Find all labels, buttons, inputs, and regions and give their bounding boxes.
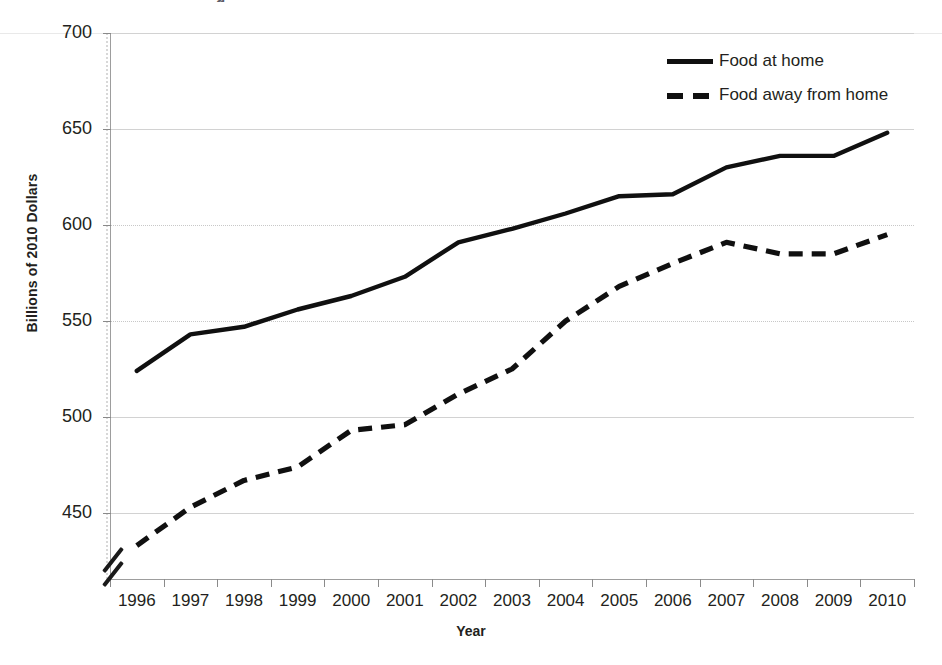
x-tick-9 <box>592 579 593 587</box>
x-tick-6 <box>432 579 433 587</box>
x-tick-15 <box>914 579 915 587</box>
x-tick-11 <box>700 579 701 587</box>
x-tick-8 <box>539 579 540 587</box>
y-tick-700 <box>103 33 111 34</box>
x-tick-4 <box>324 579 325 587</box>
chart-legend: Food at home Food away from home <box>665 44 935 112</box>
y-tick-label-450: 450 <box>36 503 92 521</box>
cropped-title-remnant: g <box>216 0 225 2</box>
y-tick-label-550: 550 <box>36 311 92 329</box>
x-tick-14 <box>860 579 861 587</box>
y-tick-label-650: 650 <box>36 119 92 137</box>
y-tick-label-600: 600 <box>36 215 92 233</box>
y-tick-label-700: 700 <box>36 23 92 41</box>
legend-item-food-at-home[interactable]: Food at home <box>665 44 935 78</box>
axis-break-icon <box>96 546 130 588</box>
x-tick-label-2010: 2010 <box>852 592 922 609</box>
x-tick-13 <box>807 579 808 587</box>
series-line-food-away-from-home <box>137 235 887 546</box>
x-tick-3 <box>271 579 272 587</box>
x-tick-1 <box>164 579 165 587</box>
gridline-650 <box>110 129 914 130</box>
y-axis-line <box>110 33 111 579</box>
x-tick-7 <box>485 579 486 587</box>
legend-label-food-at-home: Food at home <box>717 51 824 71</box>
x-tick-2 <box>217 579 218 587</box>
y-tick-650 <box>103 129 111 130</box>
gridline-600 <box>110 225 914 226</box>
gridline-550 <box>110 321 914 322</box>
y-axis-title: Billions of 2010 Dollars <box>24 143 40 363</box>
y-tick-600 <box>103 225 111 226</box>
y-tick-550 <box>103 321 111 322</box>
gridline-700 <box>110 33 914 34</box>
x-axis-title: Year <box>0 623 942 639</box>
legend-label-food-away-from-home: Food away from home <box>717 85 888 105</box>
y-tick-450 <box>103 513 111 514</box>
legend-solid-line-icon <box>665 52 717 70</box>
y-axis-minor-ticks <box>106 33 108 579</box>
y-tick-500 <box>103 417 111 418</box>
gridline-450 <box>110 513 914 514</box>
series-line-food-at-home <box>137 133 887 371</box>
y-tick-label-500: 500 <box>36 407 92 425</box>
legend-dashed-line-icon <box>665 86 717 104</box>
x-tick-5 <box>378 579 379 587</box>
x-axis-line <box>110 579 915 580</box>
x-tick-12 <box>753 579 754 587</box>
chart-page: g 700650600550500450 1996199719981999200… <box>0 0 942 665</box>
legend-item-food-away-from-home[interactable]: Food away from home <box>665 78 935 112</box>
gridline-500 <box>110 417 914 418</box>
x-tick-10 <box>646 579 647 587</box>
